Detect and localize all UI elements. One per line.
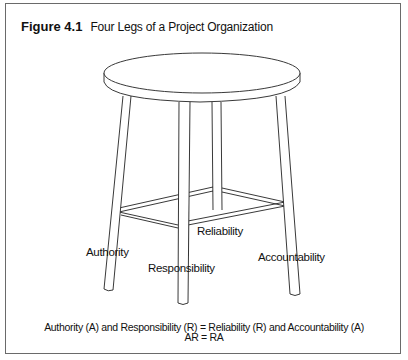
leg-responsibility [178,102,190,305]
leg-authority [104,96,131,291]
leg-accountability [276,96,300,296]
label-responsibility: Responsibility [148,262,215,274]
leg-back-left [212,102,222,210]
label-authority: Authority [86,246,129,258]
label-reliability: Reliability [197,225,243,237]
stool-illustration [0,0,408,360]
stool-seat [104,53,300,102]
label-accountability: Accountability [258,251,325,263]
stretcher-rungs [116,187,289,228]
equation-line-2: AR = RA [0,332,408,343]
